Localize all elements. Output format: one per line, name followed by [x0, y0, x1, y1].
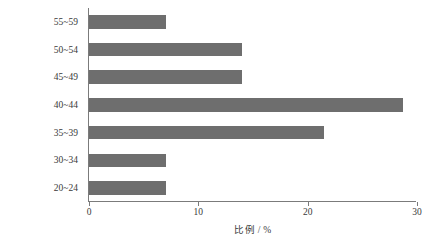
y-axis-tick-label: 30~34	[54, 147, 78, 175]
x-axis-tick-label: 30	[412, 207, 422, 217]
bar-series	[88, 8, 418, 202]
y-axis-tick-label: 35~39	[54, 119, 78, 147]
y-axis-tick-label: 20~24	[54, 174, 78, 202]
bar	[89, 98, 403, 112]
x-axis-tick-label: 20	[303, 207, 313, 217]
x-axis-tick-mark	[198, 202, 199, 206]
bar-row	[88, 119, 418, 147]
bar	[89, 126, 324, 140]
bar-chart: 年龄 / 岁 55~5950~5445~4940~4435~3930~3420~…	[0, 0, 440, 251]
bar	[89, 181, 166, 195]
x-axis-tick-mark	[417, 202, 418, 206]
x-axis-tick-mark	[308, 202, 309, 206]
bar	[89, 15, 166, 29]
bar-row	[88, 8, 418, 36]
bar	[89, 70, 242, 84]
y-axis-tick-label: 45~49	[54, 63, 78, 91]
x-axis-title: 比例 / %	[88, 222, 418, 236]
y-axis-title: 年龄 / 岁	[0, 0, 22, 251]
bar-row	[88, 36, 418, 64]
x-axis-ticks: 0102030	[88, 202, 418, 222]
y-axis-tick-label: 40~44	[54, 91, 78, 119]
bar-row	[88, 147, 418, 175]
bar	[89, 43, 242, 57]
x-axis-tick-label: 0	[87, 207, 92, 217]
x-axis-tick-label: 10	[194, 207, 204, 217]
y-axis-tick-labels: 55~5950~5445~4940~4435~3930~3420~24	[28, 8, 84, 202]
bar-row	[88, 174, 418, 202]
bar	[89, 154, 166, 168]
bar-row	[88, 91, 418, 119]
y-axis-tick-label: 50~54	[54, 36, 78, 64]
x-axis-tick-mark	[89, 202, 90, 206]
bar-row	[88, 63, 418, 91]
y-axis-tick-label: 55~59	[54, 8, 78, 36]
plot-area	[88, 8, 418, 202]
